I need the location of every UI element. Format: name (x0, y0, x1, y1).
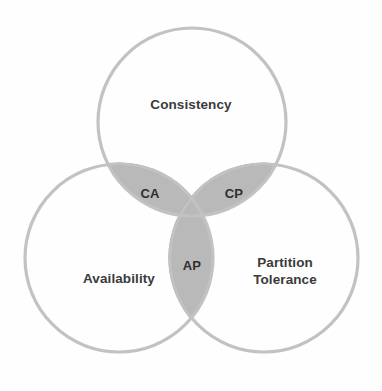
label-cp: CP (212, 186, 256, 202)
label-partition-tolerance: PartitionTolerance (210, 255, 360, 289)
label-partition-tolerance-line1: Partition (257, 255, 313, 270)
cap-theorem-venn-diagram: Consistency Availability PartitionTolera… (0, 0, 382, 391)
label-ca: CA (128, 186, 172, 202)
label-partition-tolerance-line2: Tolerance (253, 272, 317, 287)
label-ap: AP (170, 258, 214, 274)
venn-diagram-graphic (0, 0, 382, 391)
label-consistency: Consistency (0, 97, 382, 114)
